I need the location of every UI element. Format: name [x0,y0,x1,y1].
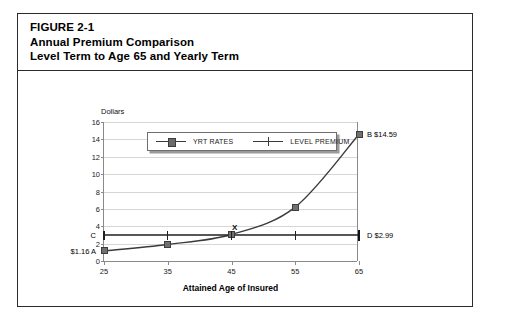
level-premium-marker-age-35 [167,231,168,240]
series-paths [104,122,359,261]
y-tick-label-12: 12 [92,152,100,161]
level-premium-marker-age-45 [231,231,232,240]
x-tick-mark-35 [168,261,169,265]
x-tick-mark-45 [232,261,233,265]
yrt-marker-age-65 [356,131,363,138]
figure-title-line-2: Annual Premium Comparison [30,35,472,50]
level-premium-marker-age-65 [358,230,361,241]
figure-title-block: FIGURE 2-1 Annual Premium Comparison Lev… [18,14,472,71]
yrt-marker-age-25 [101,247,108,254]
y-tick-label-0: 0 [96,257,100,266]
chart-area: Dollars 0246810121416 2535455565 YRT RAT… [18,71,472,306]
x-tick-label-35: 35 [164,267,172,276]
x-tick-mark-25 [104,261,105,265]
y-tick-label-14: 14 [92,135,100,144]
x-tick-label-45: 45 [227,267,235,276]
gridline-y-0: 0 [104,261,357,262]
x-tick-mark-65 [359,261,360,265]
yrt-marker-age-35 [164,241,171,248]
y-tick-label-6: 6 [96,204,100,213]
x-tick-mark-55 [295,261,296,265]
figure-frame: FIGURE 2-1 Annual Premium Comparison Lev… [17,13,473,307]
annotation-c: C [91,231,96,240]
y-tick-label-4: 4 [96,222,100,231]
annotation-x: X [232,223,237,232]
annotation-a: $1.16 A [71,246,96,255]
x-tick-label-65: 65 [355,267,363,276]
figure-number: FIGURE 2-1 [30,20,472,35]
y-tick-label-16: 16 [92,118,100,127]
yrt-marker-age-55 [292,204,299,211]
annotation-b: B $14.59 [367,130,397,139]
level-premium-marker-age-25 [103,231,104,240]
x-axis-title: Attained Age of Insured [103,283,358,293]
x-tick-label-25: 25 [100,267,108,276]
annotation-d: D $2.99 [367,231,393,240]
y-tick-label-2: 2 [96,239,100,248]
x-tick-label-55: 55 [291,267,299,276]
y-tick-label-8: 8 [96,187,100,196]
plot-region: 0246810121416 2535455565 YRT RATES LEVEL… [103,122,358,261]
y-tick-label-10: 10 [92,170,100,179]
y-axis-title: Dollars [101,107,124,116]
level-premium-marker-age-55 [295,231,296,240]
figure-title-line-3: Level Term to Age 65 and Yearly Term [30,49,472,64]
